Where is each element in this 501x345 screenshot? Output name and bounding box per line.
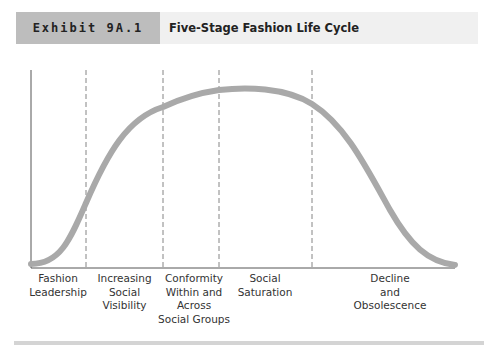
stage-labels: Fashion Leadership Increasing Social Vis…: [0, 272, 501, 332]
label-line: Fashion: [28, 272, 88, 286]
stage-label-fashion-leadership: Fashion Leadership: [28, 272, 88, 299]
label-line: Decline: [345, 272, 435, 286]
stage-label-increasing-visibility: Increasing Social Visibility: [92, 272, 157, 313]
label-line: Social: [92, 286, 157, 300]
stage-label-conformity: Conformity Within and Across Social Grou…: [154, 272, 234, 326]
label-line: and: [345, 286, 435, 300]
label-line: Social Groups: [154, 313, 234, 327]
label-line: Visibility: [92, 299, 157, 313]
label-line: Across: [154, 299, 234, 313]
label-line: Social: [232, 272, 298, 286]
adoption-curve-path: [31, 88, 455, 265]
label-line: Conformity: [154, 272, 234, 286]
label-line: Leadership: [28, 286, 88, 300]
label-line: Within and: [154, 286, 234, 300]
label-line: Saturation: [232, 286, 298, 300]
bottom-rule: [14, 341, 484, 345]
stage-label-social-saturation: Social Saturation: [232, 272, 298, 299]
stage-label-decline: Decline and Obsolescence: [345, 272, 435, 313]
label-line: Increasing: [92, 272, 157, 286]
label-line: Obsolescence: [345, 299, 435, 313]
